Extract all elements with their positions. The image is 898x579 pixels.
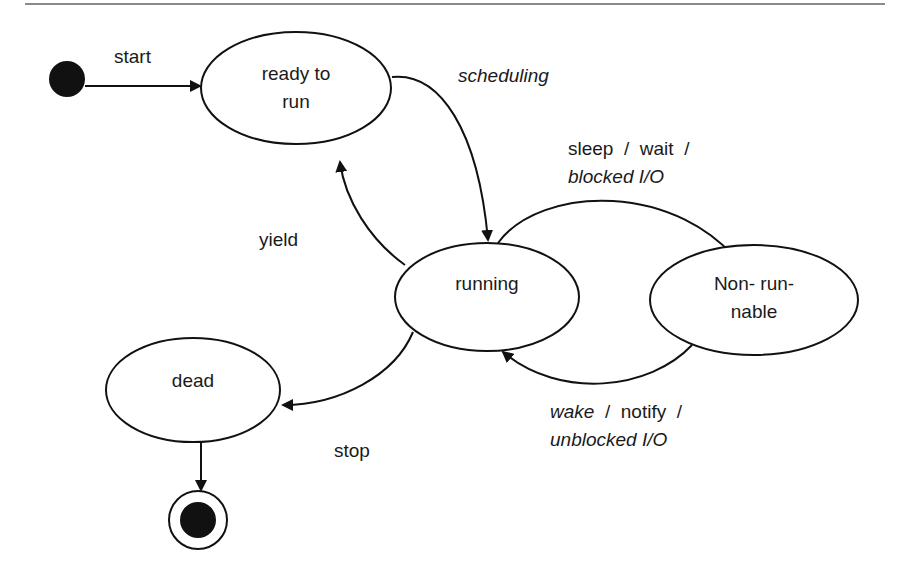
- label-yield: yield: [259, 229, 298, 250]
- transition-yield: yield: [259, 162, 405, 265]
- state-running: running: [395, 243, 579, 351]
- label-stop: stop: [334, 440, 370, 461]
- state-diagram: start ready to run scheduling yield runn…: [0, 0, 898, 579]
- state-label: nable: [731, 301, 778, 322]
- final-state: [169, 491, 227, 549]
- transition-wake: wake / notify / unblocked I/O: [503, 345, 692, 450]
- label-wake-italic: wake: [550, 401, 594, 422]
- state-label: ready to: [262, 63, 331, 84]
- state-label: running: [455, 273, 518, 294]
- transition-stop: stop: [283, 332, 413, 461]
- state-non-runnable: Non- run- nable: [650, 245, 858, 355]
- initial-state: [49, 61, 85, 97]
- state-label: Non- run-: [714, 273, 794, 294]
- label-start: start: [114, 46, 152, 67]
- label-wake-rest: / notify /: [594, 401, 682, 422]
- label-scheduling: scheduling: [458, 65, 549, 86]
- transition-scheduling: scheduling: [392, 65, 549, 240]
- state-ready-to-run: ready to run: [201, 32, 391, 144]
- state-label: dead: [172, 370, 214, 391]
- state-dead: dead: [106, 338, 280, 442]
- state-label: run: [282, 91, 309, 112]
- label-sleep-line2: blocked I/O: [568, 166, 664, 187]
- label-wake-line1: wake / notify /: [550, 401, 683, 422]
- label-sleep-line1: sleep / wait /: [568, 138, 690, 159]
- label-wake-line2: unblocked I/O: [550, 429, 667, 450]
- transition-start: start: [85, 46, 200, 86]
